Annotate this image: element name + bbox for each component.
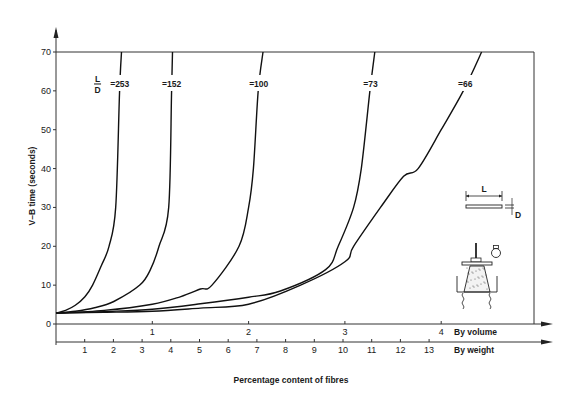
x-axis-title: Percentage content of fibres <box>234 375 349 385</box>
y-tick-label: 10 <box>41 280 51 290</box>
y-tick-label: 20 <box>41 241 51 251</box>
curve-label: =100 <box>249 79 268 89</box>
concrete-aggregate-dot <box>473 286 474 287</box>
concrete-aggregate-dot <box>480 270 481 271</box>
concrete-aggregate-dot <box>479 278 480 279</box>
volume-tick-label: 2 <box>246 327 251 337</box>
concrete-aggregate-dot <box>470 288 471 289</box>
volume-axis-label: By volume <box>454 327 497 337</box>
concrete-aggregate-dot <box>481 284 482 285</box>
curve-label: =152 <box>162 79 181 89</box>
fibre-icon <box>466 205 502 208</box>
weight-tick-label: 6 <box>226 345 231 355</box>
concrete-aggregate-dot <box>471 280 472 281</box>
weight-tick-label: 13 <box>424 345 434 355</box>
apparatus-disc <box>462 262 492 265</box>
spring-icon <box>489 293 491 309</box>
curve-label: =66 <box>458 79 473 89</box>
weight-tick-label: 8 <box>283 345 288 355</box>
concrete-aggregate-dot <box>469 274 470 275</box>
concrete-aggregate-dot <box>474 287 475 288</box>
concrete-aggregate-dot <box>468 273 469 274</box>
weight-tick-label: 9 <box>312 345 317 355</box>
concrete-aggregate-dot <box>477 285 478 286</box>
y-axis-arrow <box>54 27 59 38</box>
concrete-aggregate-dot <box>473 273 474 274</box>
concrete-aggregate-dot <box>476 271 477 272</box>
weight-tick-label: 7 <box>254 345 259 355</box>
concrete-aggregate-dot <box>467 268 468 269</box>
vebe-apparatus-inset: LD <box>457 184 521 309</box>
concrete-aggregate-dot <box>475 279 476 280</box>
concrete-aggregate-dot <box>485 283 486 284</box>
weight-tick-label: 11 <box>367 345 376 355</box>
curve-label: =253 <box>110 79 129 89</box>
concrete-aggregate-dot <box>479 269 480 270</box>
weight-icon <box>492 249 501 258</box>
curve-ld-73 <box>56 52 375 313</box>
concrete-aggregate-dot <box>484 269 485 270</box>
apparatus-collar <box>471 258 481 262</box>
concrete-aggregate-dot <box>483 277 484 278</box>
weight-tick-label: 10 <box>338 345 348 355</box>
concrete-aggregate-dot <box>482 276 483 277</box>
volume-tick-label: 4 <box>439 327 444 337</box>
fibre-length-label: L <box>481 184 486 194</box>
weight-tick-label: 1 <box>82 345 87 355</box>
concrete-aggregate-dot <box>468 282 469 283</box>
weight-tick-label: 5 <box>197 345 202 355</box>
fibre-diameter-label: D <box>515 210 521 220</box>
volume-axis-arrow <box>541 322 553 327</box>
concrete-cone <box>464 266 490 292</box>
y-tick-label: 40 <box>41 164 51 174</box>
concrete-aggregate-dot <box>467 281 468 282</box>
weight-tick-label: 4 <box>168 345 173 355</box>
concrete-aggregate-dot <box>483 268 484 269</box>
y-tick-label: 0 <box>46 319 51 329</box>
fraction-denominator: D <box>94 85 100 95</box>
y-tick-label: 60 <box>41 86 51 96</box>
fraction-numerator: L <box>95 74 100 84</box>
y-tick-label: 50 <box>41 125 51 135</box>
concrete-aggregate-dot <box>487 289 488 290</box>
chart: 010203040506070 1234By volume12345678910… <box>0 0 575 399</box>
y-axis-title: V–B time (seconds) <box>27 146 37 225</box>
y-tick-label: 70 <box>41 47 51 57</box>
curve-label: =73 <box>363 79 378 89</box>
curve-ld-100 <box>56 52 263 313</box>
concrete-aggregate-dot <box>478 286 479 287</box>
curve-ld-253 <box>56 52 122 313</box>
y-tick-label: 30 <box>41 202 51 212</box>
curve-ld-152 <box>56 52 173 313</box>
weight-tick-label: 12 <box>395 345 405 355</box>
concrete-aggregate-dot <box>478 277 479 278</box>
weight-tick-label: 3 <box>140 345 145 355</box>
weight-axis-label: By weight <box>454 345 494 355</box>
volume-tick-label: 1 <box>150 327 155 337</box>
weight-tick-label: 2 <box>111 345 116 355</box>
concrete-aggregate-dot <box>472 272 473 273</box>
volume-tick-label: 3 <box>342 327 347 337</box>
spring-icon <box>462 293 464 309</box>
concrete-aggregate-dot <box>486 275 487 276</box>
concrete-aggregate-dot <box>484 282 485 283</box>
weight-axis-arrow <box>541 340 553 345</box>
